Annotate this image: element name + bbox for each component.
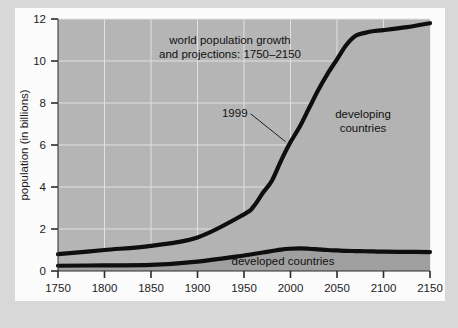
label-developing-line-2: countries (340, 122, 387, 134)
y-axis: 024681012 (33, 13, 58, 277)
annotation-1999-label: 1999 (222, 107, 248, 119)
y-tick-label: 10 (33, 55, 46, 67)
y-tick-label: 8 (40, 97, 46, 109)
y-tick-label: 6 (40, 139, 46, 151)
x-tick-label: 1950 (231, 282, 257, 294)
x-tick-label: 1800 (92, 282, 118, 294)
screenshot-canvas: 0246810121750180018501900195020002050210… (0, 0, 458, 328)
y-tick-label: 2 (40, 223, 46, 235)
chart-svg: 0246810121750180018501900195020002050210… (15, 8, 445, 301)
x-tick-label: 2000 (278, 282, 304, 294)
chart-title-line-2: and projections: 1750–2150 (159, 48, 301, 60)
x-tick-label: 2100 (371, 282, 397, 294)
label-developing-line-1: developing (335, 108, 391, 120)
x-tick-label: 1850 (138, 282, 164, 294)
x-tick-label: 2150 (417, 282, 443, 294)
label-developed-countries: developed countries (232, 255, 335, 267)
y-tick-label: 0 (40, 265, 46, 277)
y-tick-label: 12 (33, 13, 46, 25)
x-axis: 175018001850190019502000205021002150 (45, 271, 443, 294)
y-axis-title: population (in billions) (18, 89, 30, 200)
y-tick-label: 4 (40, 181, 47, 193)
x-tick-label: 1750 (45, 282, 71, 294)
x-tick-label: 1900 (185, 282, 211, 294)
figure-card: 0246810121750180018501900195020002050210… (15, 8, 445, 301)
x-tick-label: 2050 (324, 282, 350, 294)
population-chart: 0246810121750180018501900195020002050210… (15, 8, 445, 301)
chart-title-line-1: world population growth (168, 34, 290, 46)
x-axis-title: year (233, 299, 256, 301)
